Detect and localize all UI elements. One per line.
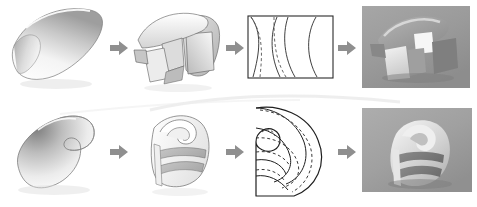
barrel-shadow xyxy=(20,79,92,89)
spiral-body xyxy=(17,116,94,188)
diagram-row-bottom xyxy=(0,104,477,207)
right-arrow-icon xyxy=(224,38,246,58)
stage-bottom-segmented-model xyxy=(126,104,226,207)
arrow-bottom-2 xyxy=(224,142,246,162)
right-arrow-icon xyxy=(336,38,358,58)
arrow-bottom-3 xyxy=(336,142,358,162)
photo-spiral-content xyxy=(362,108,472,192)
stage-bottom-photograph xyxy=(358,104,474,207)
diagram-row-top xyxy=(0,0,477,103)
stage-bottom-flat-pattern xyxy=(244,104,340,207)
segment-shadow xyxy=(144,84,212,92)
stage-top-flat-pattern xyxy=(244,0,340,103)
segment-left-tab xyxy=(134,50,148,64)
spiral-model-shadow xyxy=(152,188,208,196)
segmented-barrel-drawing xyxy=(126,0,226,103)
stage-top-smooth-surface xyxy=(4,0,112,103)
stage-top-segmented-model xyxy=(126,0,226,103)
arrow-top-2 xyxy=(224,38,246,58)
right-arrow-icon xyxy=(224,142,246,162)
flat-pattern-spiral xyxy=(244,104,340,207)
barrel-surface-drawing xyxy=(4,0,112,103)
right-arrow-icon xyxy=(336,142,358,162)
stage-top-photograph xyxy=(358,0,474,103)
arrow-top-3 xyxy=(336,38,358,58)
segment-right-panel xyxy=(186,32,214,74)
photo-spiral-model xyxy=(362,108,472,192)
photo-barrel-content xyxy=(362,6,470,88)
stage-bottom-smooth-surface xyxy=(4,104,112,207)
photo-center-wedge xyxy=(408,48,426,76)
process-diagram xyxy=(0,0,477,207)
photo-shadow xyxy=(382,73,454,83)
photo-shell-shadow xyxy=(388,179,452,189)
banded-spiral-drawing xyxy=(126,104,226,207)
spiral-shadow xyxy=(18,185,90,195)
photo-barrel-model xyxy=(362,6,470,88)
flat-pattern-rectangle xyxy=(244,0,340,103)
photo-left-tab xyxy=(370,44,386,58)
spiral-surface-drawing xyxy=(4,104,112,207)
photo-right-block xyxy=(432,38,458,74)
